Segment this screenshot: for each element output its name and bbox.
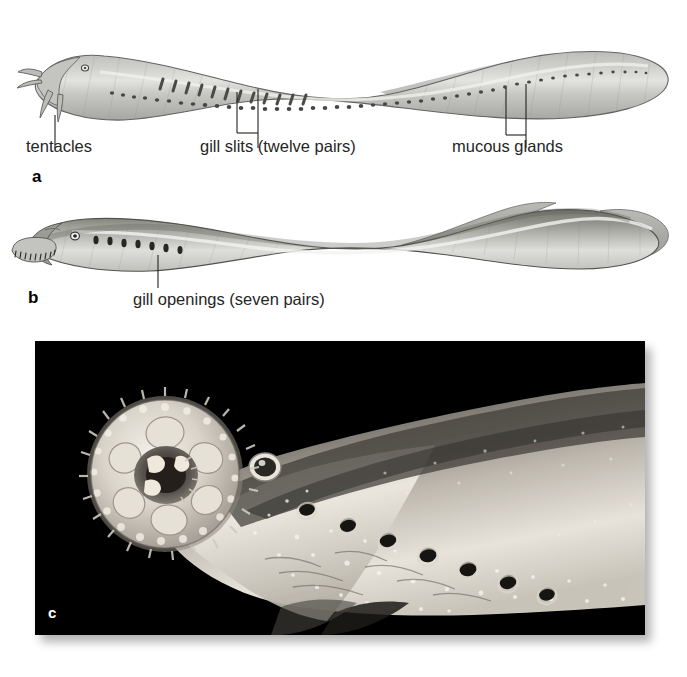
lamprey-head-photo [35,341,645,635]
panel-label-c: c [48,604,56,621]
callout-gill-openings: gill openings (seven pairs) [133,290,325,309]
panel-b-lamprey [0,185,687,305]
panel-label-b: b [28,288,38,308]
figure-container: a b tentacles gill slits (twelve pairs) … [0,0,687,677]
callout-tentacles: tentacles [26,137,92,156]
hagfish-illustration [0,20,687,180]
callout-mucous-glands: mucous glands [452,137,563,156]
callout-gill-slits: gill slits (twelve pairs) [200,137,356,156]
panel-a-hagfish [0,20,687,180]
panel-c-photograph [35,341,645,635]
photo-lamprey-eye [249,453,281,481]
lamprey-eye [71,232,80,240]
lamprey-illustration [0,185,687,305]
hagfish-eyespot [81,65,88,71]
hagfish-body [35,52,668,120]
panel-label-a: a [32,167,41,187]
lamprey-oral-disc [12,237,56,262]
